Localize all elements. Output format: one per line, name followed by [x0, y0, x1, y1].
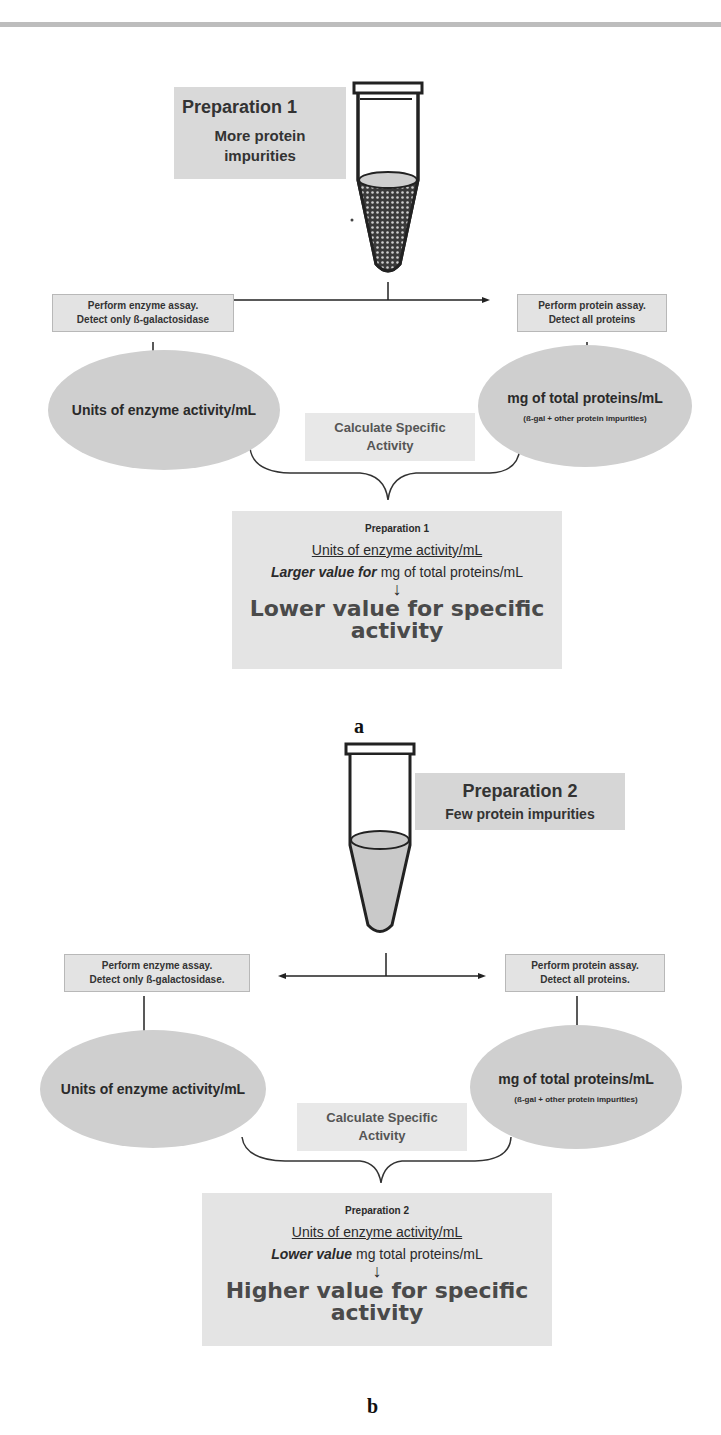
enzyme-assay-line1: Perform enzyme assay. — [69, 959, 245, 973]
enzyme-assay-box: Perform enzyme assay. Detect only ß-gala… — [64, 954, 250, 992]
result-units: Units of enzyme activity/mL — [202, 1224, 552, 1240]
calc-line1: Calculate Specific — [301, 1109, 463, 1127]
protein-assay-line1: Perform protein assay. — [510, 959, 660, 973]
enzyme-ellipse-text: Units of enzyme activity/mL — [61, 1081, 245, 1097]
enzyme-activity-ellipse: Units of enzyme activity/mL — [40, 1030, 266, 1148]
preparation-2-label: Preparation 2 Few protein impurities — [415, 773, 625, 830]
protein-assay-line2: Detect all proteins. — [510, 973, 660, 987]
total-protein-ellipse: mg of total proteins/mL (ß-gal + other p… — [470, 1025, 682, 1149]
enzyme-assay-line2: Detect only ß-galactosidase. — [69, 973, 245, 987]
preparation-subtitle: Few protein impurities — [415, 806, 625, 822]
calculate-specific-activity-box: Calculate Specific Activity — [297, 1103, 467, 1151]
result-title: Preparation 2 — [202, 1205, 552, 1216]
microcentrifuge-tube-icon — [346, 744, 414, 932]
protein-ellipse-text: mg of total proteins/mL — [498, 1071, 654, 1087]
preparation-title: Preparation 2 — [415, 781, 625, 802]
panel-label-b: b — [367, 1395, 378, 1418]
calc-line2: Activity — [301, 1127, 463, 1145]
result-conclusion-line1: Higher value for specific — [202, 1280, 552, 1302]
result-denominator: Lower value mg total proteins/mL — [202, 1246, 552, 1262]
protein-ellipse-subtext: (ß-gal + other protein impurities) — [514, 1095, 637, 1104]
protein-assay-box: Perform protein assay. Detect all protei… — [505, 954, 665, 992]
result-box-preparation-2: Preparation 2 Units of enzyme activity/m… — [202, 1193, 552, 1346]
result-conclusion-line2: activity — [202, 1302, 552, 1324]
